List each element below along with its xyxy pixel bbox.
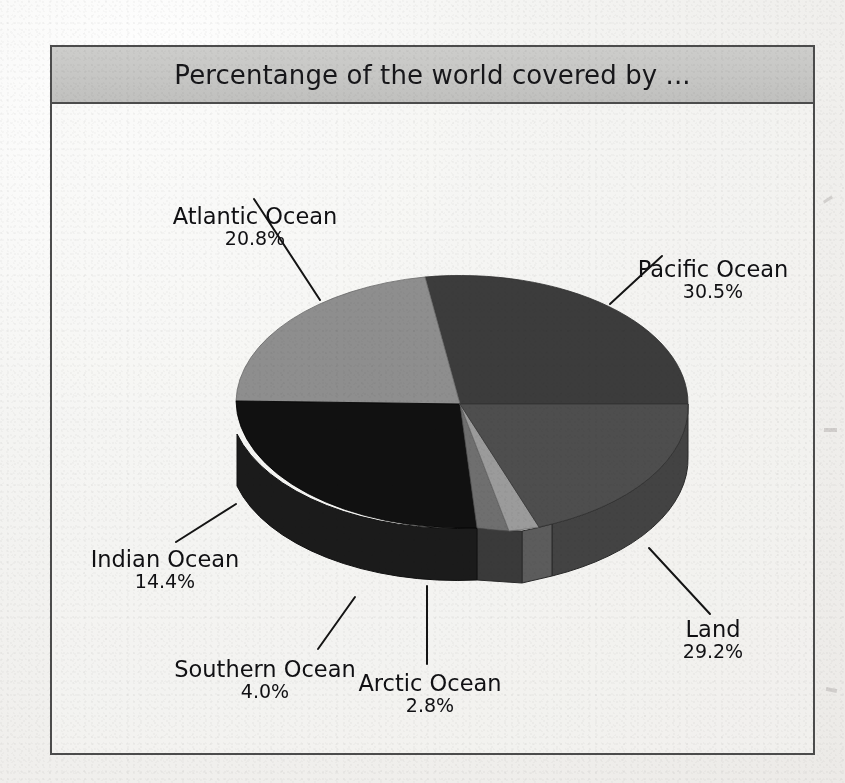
pie-side-southern xyxy=(477,528,522,583)
callout-land: Land 29.2% xyxy=(630,617,796,662)
chart-plot-area: Atlantic Ocean 20.8% Pacific Ocean 30.5%… xyxy=(52,104,813,753)
callout-indian: Indian Ocean 14.4% xyxy=(50,547,280,592)
callout-atlantic-pct: 20.8% xyxy=(134,228,376,249)
leader-line-southern xyxy=(318,597,355,649)
callout-indian-name: Indian Ocean xyxy=(50,547,280,571)
callout-pacific-name: Pacific Ocean xyxy=(598,257,828,281)
leader-line-land xyxy=(649,548,710,614)
pie-top-face xyxy=(236,275,688,531)
chart-title: Percentange of the world covered by ... xyxy=(174,60,690,90)
callout-arctic-pct: 2.8% xyxy=(314,695,546,716)
pie-slice-atlantic[interactable] xyxy=(236,277,460,404)
scan-artifact xyxy=(824,428,837,432)
callout-atlantic-name: Atlantic Ocean xyxy=(134,204,376,228)
callout-land-name: Land xyxy=(630,617,796,641)
callout-atlantic: Atlantic Ocean 20.8% xyxy=(134,204,376,249)
callout-arctic-name: Arctic Ocean xyxy=(314,671,546,695)
callout-pacific-pct: 30.5% xyxy=(598,281,828,302)
callout-pacific: Pacific Ocean 30.5% xyxy=(598,257,828,302)
pie-side-arctic xyxy=(522,524,552,583)
callout-arctic: Arctic Ocean 2.8% xyxy=(314,671,546,716)
chart-title-bar: Percentange of the world covered by ... xyxy=(52,47,813,104)
callout-land-pct: 29.2% xyxy=(630,641,796,662)
leader-line-indian xyxy=(176,504,236,542)
callout-indian-pct: 14.4% xyxy=(50,571,280,592)
chart-frame: Percentange of the world covered by ... xyxy=(50,45,815,755)
